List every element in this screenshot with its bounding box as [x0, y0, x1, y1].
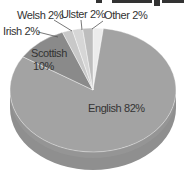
label-ulster: Ulster 2%	[61, 8, 106, 20]
label-irish: Irish 2%	[3, 25, 40, 37]
label-welsh: Welsh 2%	[17, 9, 64, 21]
pie-chart: Other 2% Ulster 2% Welsh 2% Irish 2% Sco…	[0, 0, 186, 178]
label-other: Other 2%	[104, 9, 148, 21]
label-scottish-name: Scottish	[31, 47, 67, 59]
label-scottish-value: 10%	[33, 60, 54, 72]
chart-title-cut-off	[96, 0, 184, 6]
label-english: English 82%	[88, 102, 145, 114]
